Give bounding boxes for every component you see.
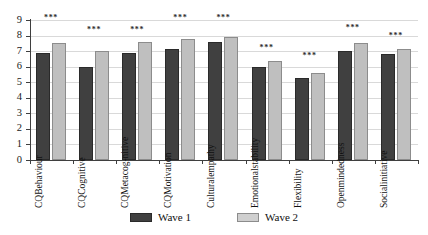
x-axis-label-line: Emotional	[250, 168, 261, 208]
x-axis-label-line: CQ	[34, 195, 45, 208]
y-tick-label: 8	[0, 30, 22, 41]
bar-wave-2	[311, 73, 325, 160]
legend-swatch-wave-2	[237, 213, 259, 222]
x-axis-label: CQMetacog-nitive	[120, 162, 162, 208]
legend-swatch-wave-1	[130, 213, 152, 222]
significance-marker: ***	[33, 14, 69, 22]
y-tick-label: 9	[0, 15, 22, 26]
x-axis-label: Culturalempathy	[206, 162, 248, 208]
x-axis-label-line: Cultural	[206, 177, 217, 208]
x-axis-label-line: CQ	[163, 195, 174, 208]
significance-marker: ***	[205, 14, 241, 22]
x-axis-label-line: CQ	[120, 195, 131, 208]
y-tick-label: 6	[0, 61, 22, 72]
x-axis-label-line: initiative	[379, 150, 390, 184]
x-axis-label-line: Open	[336, 187, 347, 208]
x-axis-label-line: Social	[379, 184, 390, 208]
bar-group: ***	[76, 20, 119, 160]
y-tick-label: 0	[0, 155, 22, 166]
bar-wave-2	[224, 37, 238, 160]
bar-wave-2	[181, 39, 195, 160]
significance-marker: ***	[162, 14, 198, 22]
x-axis-label-line: Motivation	[163, 153, 174, 195]
bar-wave-2	[268, 61, 282, 160]
significance-marker: ***	[378, 32, 414, 40]
bar-wave-2	[95, 51, 109, 160]
x-axis-label: CQCognitive	[77, 162, 119, 208]
x-axis-label-line: nitive	[120, 137, 131, 159]
significance-marker: ***	[76, 26, 112, 34]
x-axis-label: Socialinitiative	[379, 162, 421, 208]
bar-wave-1	[165, 49, 179, 160]
y-tick-label: 3	[0, 108, 22, 119]
bar-wave-2	[52, 43, 66, 160]
significance-marker: ***	[249, 44, 285, 52]
x-axis-label: Openmindedness	[336, 162, 378, 208]
x-axis-label: CQMotivation	[163, 162, 205, 208]
y-tick-mark	[26, 129, 31, 130]
bar-group: ***	[33, 20, 76, 160]
significance-marker: ***	[119, 26, 155, 34]
legend-label-wave-2: Wave 2	[265, 212, 298, 223]
x-axis-label-line: stability	[250, 138, 261, 169]
bar-wave-2	[138, 42, 152, 160]
bar-wave-1	[208, 42, 222, 160]
bar-group: ***	[335, 20, 378, 160]
x-axis-label: CQBehaviour	[34, 162, 76, 208]
y-tick-label: 4	[0, 92, 22, 103]
x-axis-label-line: Flexibility	[293, 168, 304, 208]
bar-wave-2	[397, 49, 411, 160]
y-tick-mark	[26, 20, 31, 21]
y-tick-label: 7	[0, 46, 22, 57]
legend-item-wave-1: Wave 1	[130, 212, 191, 223]
bar-wave-1	[381, 54, 395, 160]
x-axis-label: Emotionalstability	[250, 162, 292, 208]
bar-group: ***	[292, 20, 335, 160]
bar-chart: 0123456789 *************************** C…	[0, 0, 428, 235]
y-tick-mark	[26, 113, 31, 114]
y-tick-mark	[26, 144, 31, 145]
y-tick-mark	[26, 98, 31, 99]
legend-label-wave-1: Wave 1	[158, 212, 191, 223]
y-tick-label: 1	[0, 139, 22, 150]
y-axis-labels: 0123456789	[0, 0, 26, 180]
y-tick-label: 5	[0, 77, 22, 88]
bar-wave-1	[79, 67, 93, 160]
legend-item-wave-2: Wave 2	[237, 212, 298, 223]
x-axis-label-line: empathy	[206, 144, 217, 177]
y-axis-line	[30, 19, 31, 161]
y-tick-mark	[26, 36, 31, 37]
x-axis-label-line: CQ	[77, 195, 88, 208]
bar-group: ***	[205, 20, 248, 160]
plot-area: ***************************	[30, 20, 418, 160]
bar-wave-1	[295, 78, 309, 160]
bar-group: ***	[378, 20, 421, 160]
x-axis-label-line: Metacog-	[120, 158, 131, 194]
significance-marker: ***	[335, 24, 371, 32]
x-axis-label-line: Behaviour	[34, 155, 45, 195]
x-axis-line	[30, 160, 419, 161]
x-axis-label-line: Cognitive	[77, 157, 88, 194]
x-axis-label: Flexibility	[293, 162, 335, 208]
x-axis-label-line: mindedness	[336, 143, 347, 188]
y-tick-mark	[26, 82, 31, 83]
bar-wave-1	[36, 53, 50, 160]
y-tick-label: 2	[0, 123, 22, 134]
bar-group: ***	[162, 20, 205, 160]
significance-marker: ***	[292, 52, 328, 60]
y-tick-mark	[26, 67, 31, 68]
x-axis-category-labels: CQBehaviourCQCognitiveCQMetacog-nitiveCQ…	[30, 162, 419, 210]
bar-wave-2	[354, 43, 368, 160]
y-tick-mark	[26, 51, 31, 52]
chart-legend: Wave 1 Wave 2	[0, 212, 428, 223]
